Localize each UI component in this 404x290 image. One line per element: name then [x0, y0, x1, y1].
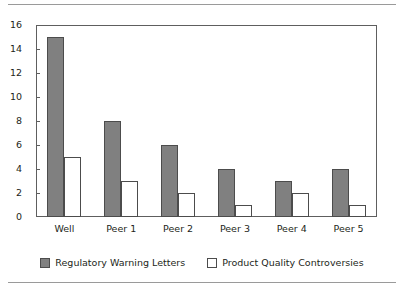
bar-peer-1-series-2 [121, 181, 138, 217]
y-axis-tick-mark [36, 193, 40, 194]
x-axis-tick-label: Peer 3 [220, 224, 250, 234]
y-axis-tick-mark [36, 169, 40, 170]
bottom-divider-rule [8, 282, 396, 283]
y-axis-tick-mark [36, 73, 40, 74]
bar-peer-4-series-1 [275, 181, 292, 217]
plot-area [36, 25, 377, 217]
x-axis-tick-label: Peer 5 [334, 224, 364, 234]
legend-swatch-icon [207, 258, 217, 268]
y-axis-tick-label: 2 [0, 188, 22, 198]
chart-legend: Regulatory Warning LettersProduct Qualit… [0, 258, 404, 268]
legend-label: Product Quality Controversies [222, 258, 364, 268]
bar-well-series-1 [47, 37, 64, 217]
bar-peer-3-series-2 [235, 205, 252, 217]
y-axis-tick-label: 0 [0, 212, 22, 222]
y-axis-tick-label: 8 [0, 116, 22, 126]
y-axis-tick-label: 10 [0, 92, 22, 102]
clipped-caption-text [56, 0, 356, 2]
bar-peer-2-series-2 [178, 193, 195, 217]
y-axis-tick-label: 6 [0, 140, 22, 150]
x-axis-tick-label: Peer 4 [277, 224, 307, 234]
y-axis-tick-label: 14 [0, 44, 22, 54]
bar-peer-3-series-1 [218, 169, 235, 217]
legend-item-1[interactable]: Regulatory Warning Letters [40, 258, 185, 268]
x-axis-tick-label: Peer 1 [106, 224, 136, 234]
y-axis-tick-mark [36, 97, 40, 98]
bar-peer-5-series-1 [332, 169, 349, 217]
y-axis-tick-mark [36, 121, 40, 122]
y-axis-tick-label: 4 [0, 164, 22, 174]
bar-peer-2-series-1 [161, 145, 178, 217]
y-axis-tick-label: 12 [0, 68, 22, 78]
top-divider-rule [8, 4, 396, 5]
y-axis-tick-mark [36, 49, 40, 50]
bar-well-series-2 [64, 157, 81, 217]
y-axis-tick-label: 16 [0, 20, 22, 30]
y-axis-tick-mark [36, 145, 40, 146]
chart-figure: 0246810121416 WellPeer 1Peer 2Peer 3Peer… [0, 0, 404, 290]
legend-item-2[interactable]: Product Quality Controversies [207, 258, 364, 268]
x-axis-tick-label: Peer 2 [163, 224, 193, 234]
bars-layer [36, 25, 377, 217]
bar-peer-1-series-1 [104, 121, 121, 217]
bar-peer-4-series-2 [292, 193, 309, 217]
legend-label: Regulatory Warning Letters [55, 258, 185, 268]
legend-swatch-icon [40, 258, 50, 268]
bar-peer-5-series-2 [349, 205, 366, 217]
x-axis-tick-label: Well [54, 224, 74, 234]
